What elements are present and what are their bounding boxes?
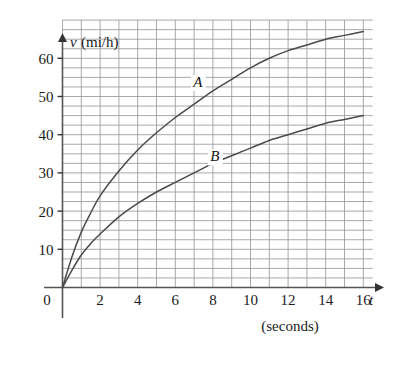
y-axis-ticks: 102030405060 <box>39 51 63 258</box>
y-axis-tick-label: 20 <box>39 204 54 220</box>
velocity-time-graph: 102030405060 246810121416 AB v (mi/h) t … <box>0 0 397 370</box>
x-axis-tick-label: 8 <box>209 292 217 308</box>
y-axis-arrowhead <box>58 33 67 42</box>
x-axis-title: t <box>369 292 374 308</box>
chart-canvas: 102030405060 246810121416 AB v (mi/h) t … <box>0 0 397 370</box>
x-axis-tick-label: 6 <box>172 292 180 308</box>
y-axis-units: (mi/h) <box>81 34 119 51</box>
x-axis-tick-label: 2 <box>96 292 104 308</box>
axes <box>44 33 384 318</box>
curve-label-b: B <box>210 148 219 164</box>
x-axis-ticks: 246810121416 <box>96 292 371 308</box>
y-axis-tick-label: 30 <box>39 165 54 181</box>
x-axis-units-caption: (seconds) <box>261 318 318 335</box>
curve-label-a: A <box>192 74 203 90</box>
origin-tick-label: 0 <box>43 292 51 308</box>
x-axis-tick-label: 12 <box>281 292 296 308</box>
y-axis-tick-label: 10 <box>39 242 54 258</box>
y-axis-tick-label: 40 <box>39 127 54 143</box>
y-axis-title: v <box>70 34 77 50</box>
x-axis-arrowhead <box>375 283 384 292</box>
x-axis-tick-label: 14 <box>318 292 334 308</box>
x-axis-tick-label: 4 <box>134 292 142 308</box>
x-axis-tick-label: 10 <box>243 292 258 308</box>
y-axis-tick-label: 50 <box>39 89 54 105</box>
y-axis-tick-label: 60 <box>39 51 54 67</box>
